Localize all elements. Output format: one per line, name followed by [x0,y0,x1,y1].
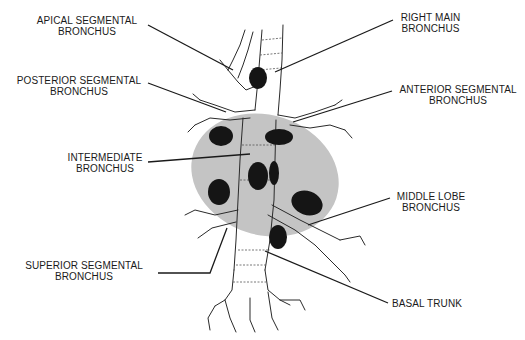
lymph-node [208,179,230,205]
leader-right-main [275,20,393,72]
label-apical-segmental-bronchus: APICAL SEGMENTAL BRONCHUS [26,15,148,37]
label-middle-lobe-bronchus: MIDDLE LOBE BRONCHUS [391,191,471,213]
label-anterior-segmental-bronchus: ANTERIOR SEGMENTAL BRONCHUS [393,84,523,106]
bronchial-tree-diagram: APICAL SEGMENTAL BRONCHUS POSTERIOR SEGM… [0,0,525,340]
lymph-node [265,129,293,145]
lymph-node [209,126,233,146]
label-superior-segmental-bronchus: SUPERIOR SEGMENTAL BRONCHUS [14,260,154,282]
leader-anterior [293,91,392,122]
label-intermediate-bronchus: INTERMEDIATE BRONCHUS [60,152,150,174]
lymph-node [249,67,267,89]
label-basal-trunk: BASAL TRUNK [392,298,472,309]
lymph-node [248,162,268,190]
label-posterior-segmental-bronchus: POSTERIOR SEGMENTAL BRONCHUS [10,75,148,97]
label-right-main-bronchus: RIGHT MAIN BRONCHUS [393,12,468,34]
leader-superior [158,228,227,273]
leader-basal-trunk [265,251,388,303]
lymph-node [269,161,279,185]
leader-apical [148,25,233,70]
leader-posterior [148,83,226,112]
lymph-node [269,225,287,249]
